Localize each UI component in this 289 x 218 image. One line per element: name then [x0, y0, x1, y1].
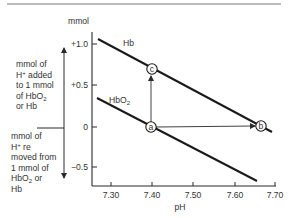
- svg-text:c: c: [150, 64, 155, 74]
- point-b: b: [256, 121, 266, 131]
- x-tick-label: 7.30: [103, 190, 120, 200]
- series-label-hbo2: HbO2: [109, 95, 131, 106]
- side-label-removed: mmol of H+ re moved from 1 mmol of HbO2 …: [11, 131, 56, 195]
- side-label-added: mmol of H+ added to 1 mmol of HbO2 or Hb: [16, 59, 54, 112]
- y-tick-label: −0.5: [71, 162, 88, 172]
- x-ticks: [111, 182, 275, 186]
- x-tick-label: 7.50: [185, 190, 202, 200]
- point-a: a: [146, 122, 156, 132]
- x-tick-label: 7.40: [144, 190, 161, 200]
- y-tick-label: +0.5: [71, 80, 88, 90]
- x-tick-label: 7.70: [267, 190, 284, 200]
- y-ticks: [92, 44, 97, 167]
- point-c: c: [147, 64, 157, 74]
- series-line-hb: [98, 39, 272, 132]
- y-tick-label: +1.0: [71, 39, 88, 49]
- y-tick-label: 0: [83, 122, 88, 132]
- x-tick-label: 7.60: [227, 190, 244, 200]
- y-unit-label: mmol: [68, 16, 89, 26]
- series-label-hb: Hb: [123, 38, 134, 48]
- svg-text:a: a: [149, 122, 154, 132]
- arrow-a-to-b: [156, 126, 255, 127]
- svg-text:b: b: [259, 121, 264, 131]
- x-axis-label: pH: [175, 202, 186, 212]
